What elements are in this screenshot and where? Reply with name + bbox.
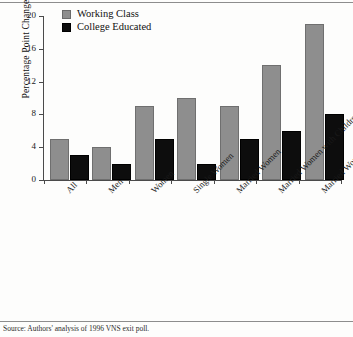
chart-legend: Working Class College Educated	[62, 8, 151, 34]
bar-working-class	[177, 98, 196, 180]
x-tick	[171, 180, 172, 184]
bar-group	[177, 16, 217, 180]
bar-working-class	[135, 106, 154, 180]
y-tick-label-8: 8	[0, 109, 36, 118]
bar-working-class	[220, 106, 239, 180]
x-tick	[86, 180, 87, 184]
x-tick	[129, 180, 130, 184]
bars-layer	[44, 16, 341, 180]
bar-college-educated	[70, 155, 89, 180]
bar-group	[50, 16, 90, 180]
bar-group	[92, 16, 132, 180]
bar-group	[220, 16, 260, 180]
figure-container: Percentage Point Change 048121620 AllMen…	[0, 0, 353, 337]
legend-swatch-college-educated	[62, 23, 71, 32]
bar-working-class	[305, 24, 324, 180]
x-tick	[44, 180, 45, 184]
figure-top-rule	[0, 2, 353, 3]
legend-label-working-class: Working Class	[77, 9, 139, 20]
bar-working-class	[262, 65, 281, 180]
legend-swatch-working-class	[62, 10, 71, 19]
y-tick-label-16: 16	[0, 44, 36, 53]
bar-working-class	[50, 139, 69, 180]
bar-group	[262, 16, 302, 180]
x-axis-line	[43, 180, 341, 181]
bar-college-educated	[112, 164, 131, 180]
y-tick-label-12: 12	[0, 77, 36, 86]
bar-college-educated	[282, 131, 301, 180]
x-tick	[256, 180, 257, 184]
bar-college-educated	[197, 164, 216, 180]
bar-college-educated	[240, 139, 259, 180]
bar-college-educated	[325, 114, 344, 180]
bar-working-class	[92, 147, 111, 180]
bar-group	[135, 16, 175, 180]
x-tick	[341, 180, 342, 184]
y-tick-label-20: 20	[0, 11, 36, 20]
y-tick-label-4: 4	[0, 142, 36, 151]
legend-label-college-educated: College Educated	[77, 22, 151, 33]
legend-item-college-educated: College Educated	[62, 21, 151, 33]
x-tick	[214, 180, 215, 184]
figure-bottom-rule	[0, 321, 353, 322]
bar-group	[305, 16, 345, 180]
x-tick	[299, 180, 300, 184]
legend-item-working-class: Working Class	[62, 8, 151, 20]
source-note: Source: Authors' analysis of 1996 VNS ex…	[3, 325, 343, 333]
x-axis-label: All	[64, 180, 79, 195]
bar-college-educated	[155, 139, 174, 180]
y-tick-label-0: 0	[0, 175, 36, 184]
